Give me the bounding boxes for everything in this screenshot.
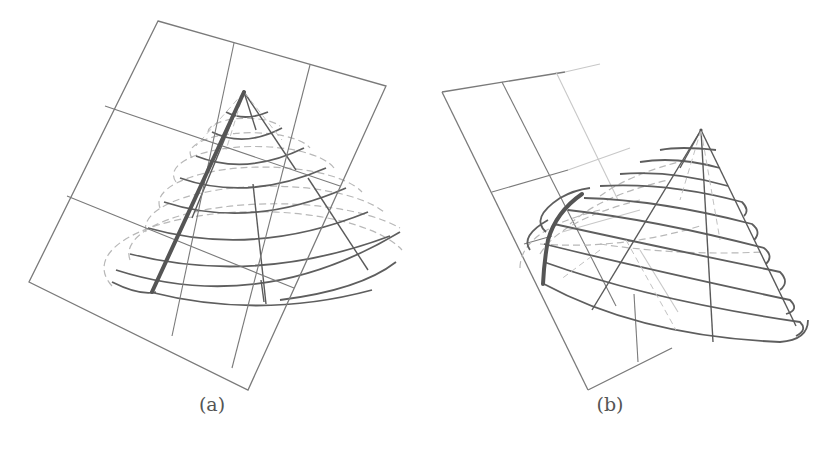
cone-a-apex [242,90,245,93]
cone-b-apex [699,128,702,131]
caption-a: (a) [182,393,242,415]
caption-b: (b) [580,393,640,415]
panel-a [29,21,402,390]
cone-a-hidden-rings [104,118,402,286]
figure-canvas [0,0,836,451]
panel-b [442,64,808,390]
cone-b-rings [527,148,808,342]
plane-a [29,21,386,390]
cone-a-rulings [192,92,368,304]
cone-b-rulings [560,130,796,342]
